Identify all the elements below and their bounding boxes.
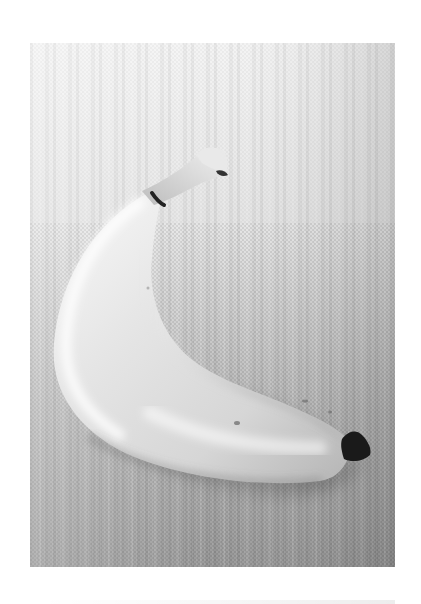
banana-photo-graphic — [30, 43, 395, 567]
page — [0, 0, 421, 604]
banana-photo — [30, 43, 395, 567]
page-edge-bleed — [40, 600, 395, 604]
